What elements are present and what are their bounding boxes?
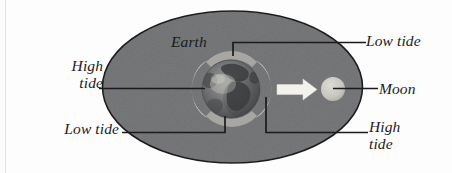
label-high-tide-right: High tide (369, 118, 400, 152)
label-low-tide-left: Low tide (64, 120, 119, 137)
label-moon: Moon (379, 80, 416, 97)
label-high-tide-left: High tide (72, 57, 103, 91)
tide-diagram-figure: High tide Low tide Earth Low tide Moon H… (0, 0, 452, 173)
label-earth: Earth (171, 33, 207, 50)
label-low-tide-right: Low tide (366, 32, 421, 49)
